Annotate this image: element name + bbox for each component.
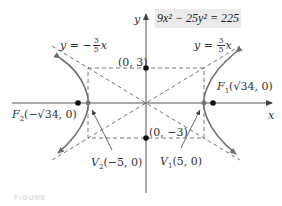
- hyperbola-branch-left: [58, 58, 88, 153]
- vertex-right-point: [202, 101, 207, 106]
- equation-text: 9x² − 25y² = 225: [157, 11, 239, 26]
- hyperbola-diagram: [0, 0, 282, 206]
- focus-left-point: [75, 100, 81, 106]
- asymptote-negative-label: y = −35x: [60, 37, 107, 54]
- figure-caption: FIGURE: [14, 194, 46, 201]
- vertex-left-label: V2(−5, 0): [91, 157, 142, 171]
- focus-right-label: F1(√34, 0): [217, 81, 273, 95]
- y-axis-label: y: [134, 14, 140, 25]
- focus-right-point: [210, 100, 216, 106]
- vertex-right-label: V1(5, 0): [160, 156, 202, 170]
- co-vertex-bottom-point: [143, 135, 149, 141]
- co-vertex-bottom-label: (0, −3): [149, 127, 188, 138]
- focus-left-label: F2(−√34, 0): [12, 109, 77, 123]
- asymptote-positive-label: y = 35x: [194, 37, 232, 54]
- vertex-left-pointer: [92, 110, 112, 150]
- equation-box: 9x² − 25y² = 225: [155, 9, 241, 28]
- co-vertex-top-label: (0, 3): [118, 57, 148, 68]
- x-axis-label: x: [268, 110, 274, 121]
- vertex-left-point: [86, 101, 91, 106]
